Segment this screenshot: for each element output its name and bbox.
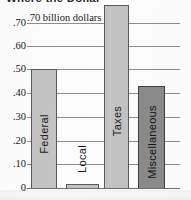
y-tick-020: .20 [0,136,26,146]
bar-federal: Federal [31,69,57,189]
bar-label-taxes: Taxes [111,106,123,136]
y-tick-040: .40 [0,88,26,98]
y-tick-060: .60 [0,41,26,51]
axis-baseline [27,188,180,189]
bar-label-miscellaneous: Miscellaneous [146,105,158,179]
y-tick-030: .30 [0,112,26,122]
chart-title-clipped: Where the Dollar [6,0,156,5]
y-tick-000: 0 [0,183,26,193]
bar-miscellaneous: Miscellaneous [138,86,165,189]
scan-bottom-smudge [0,190,191,200]
y-tick-070: .70 [0,18,26,28]
chart-title-text: Where the Dollar [6,0,156,5]
bar-label-local: Local [76,145,88,173]
y-axis-ticks: .70 .60 .50 .40 .30 .20 .10 0 [0,0,26,200]
y-tick-010: .10 [0,159,26,169]
y-tick-050: .50 [0,64,26,74]
y-axis-unit-caption: .70 billion dollars [27,12,101,23]
bar-chart: Where the Dollar .70 .60 .50 .40 .30 .20… [0,0,191,200]
bar-taxes: Taxes [104,5,129,189]
bar-label-federal: Federal [38,114,50,153]
